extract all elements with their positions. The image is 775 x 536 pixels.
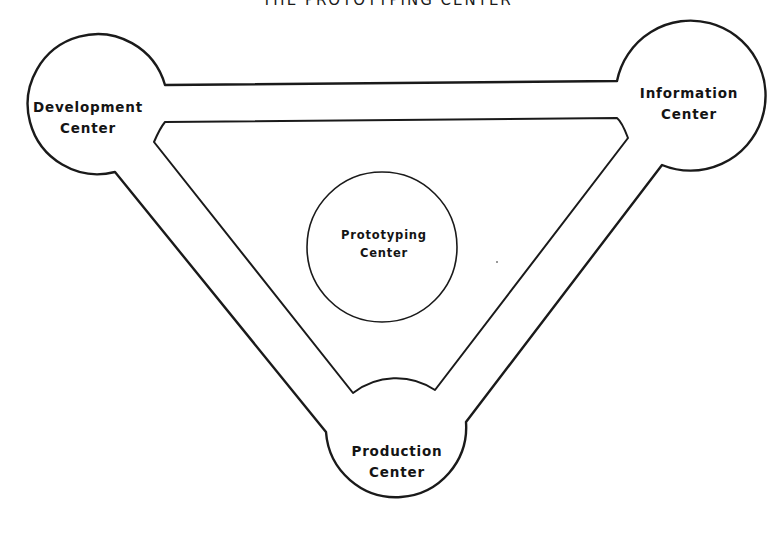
node-production-line1: Production	[351, 441, 442, 462]
node-development: Development Center	[33, 97, 143, 139]
node-information: Information Center	[640, 83, 738, 125]
node-prototyping-line1: Prototyping	[341, 227, 427, 245]
node-production-line2: Center	[351, 462, 442, 483]
node-development-line2: Center	[33, 118, 143, 139]
node-production: Production Center	[351, 441, 442, 483]
node-prototyping-line2: Center	[341, 245, 427, 263]
scan-artifact-dot	[496, 261, 498, 263]
node-information-line2: Center	[640, 104, 738, 125]
node-information-line1: Information	[640, 83, 738, 104]
node-development-line1: Development	[33, 97, 143, 118]
node-prototyping: Prototyping Center	[341, 227, 427, 263]
